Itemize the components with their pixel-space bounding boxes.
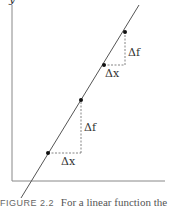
figure-number: FIGURE 2.2 [0,198,54,206]
delta-f-label-upper: Δf [128,46,141,59]
figure-caption: FIGURE 2.2 For a linear function the [0,196,169,206]
point-marker [123,30,127,34]
point-marker [79,98,83,102]
point-marker [46,151,50,155]
linear-function-diagram: y Δx Δf Δx Δf [0,0,169,206]
delta-x-label-upper: Δx [105,67,120,80]
delta-f-label-lower: Δf [84,121,97,134]
caption-text: For a linear function the [61,196,167,206]
delta-x-label-lower: Δx [61,155,76,168]
